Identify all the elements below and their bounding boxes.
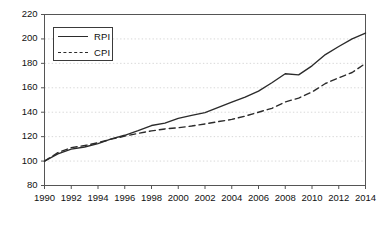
x-axis-tick-label: 1992 [57,192,85,203]
y-axis-tick-label: 120 [0,130,38,141]
x-axis-tick-label: 2006 [245,192,273,203]
legend-label: CPI [94,47,110,58]
x-axis-tick-label: 1990 [31,192,59,203]
x-axis-tick-label: 1994 [84,192,112,203]
x-axis-tick-label: 2004 [218,192,246,203]
line-chart: 2202001801601401201008019901992199419961… [0,0,377,228]
legend-label: RPI [94,31,110,42]
y-axis-tick-label: 200 [0,32,38,43]
x-axis-tick-label: 2010 [298,192,326,203]
legend-item-rpi: RPI [54,28,112,44]
x-axis-tick-label: 1996 [111,192,139,203]
x-axis-tick-label: 1998 [138,192,166,203]
y-axis-tick-label: 180 [0,57,38,68]
legend-swatch-cpi [58,48,88,57]
x-axis-tick-label: 2012 [325,192,353,203]
legend: RPICPI [53,27,113,61]
y-axis-tick-label: 220 [0,8,38,19]
x-axis-tick-label: 2014 [352,192,377,203]
y-axis-tick-label: 100 [0,155,38,166]
y-axis-tick-label: 160 [0,81,38,92]
y-axis-tick-label: 140 [0,106,38,117]
x-axis-tick-label: 2002 [191,192,219,203]
legend-swatch-rpi [58,32,88,41]
x-axis-tick-label: 2000 [164,192,192,203]
x-axis-tick-label: 2008 [271,192,299,203]
y-axis-tick-label: 80 [0,179,38,190]
legend-item-cpi: CPI [54,44,112,60]
